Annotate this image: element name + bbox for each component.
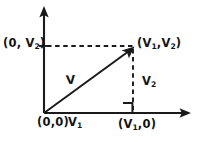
vector-diagram: (0, V2) (V1,V2) (0,0) V1 (V1,0) V2 V <box>0 0 197 142</box>
label-y-intercept-point: (0, V2) <box>3 38 45 50</box>
label-x-component: V1 <box>68 117 82 129</box>
diagram-canvas <box>0 0 197 142</box>
right-angle-marker <box>123 103 132 112</box>
label-origin-point: (0,0) <box>37 117 69 129</box>
vector-v-line <box>44 51 129 113</box>
label-y-component: V2 <box>142 76 156 88</box>
label-x-intercept-point: (V1,0) <box>118 119 156 131</box>
label-vector-magnitude: V <box>66 74 76 87</box>
label-vector-tip-point: (V1,V2) <box>137 38 181 50</box>
